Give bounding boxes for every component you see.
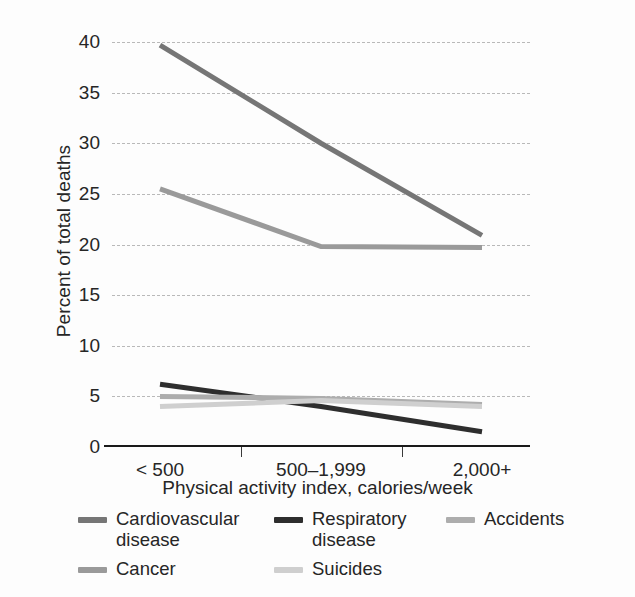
y-tick-label: 5	[44, 385, 100, 407]
legend-row: Cardiovascular diseaseRespiratory diseas…	[78, 508, 598, 550]
legend-label: Respiratory disease	[312, 508, 446, 550]
y-tick-label: 25	[44, 183, 100, 205]
legend-item[interactable]: Accidents	[446, 508, 596, 529]
y-tick-label: 30	[44, 132, 100, 154]
chart-figure: Percent of total deaths 0510152025303540…	[0, 0, 635, 597]
x-tick-mark	[241, 447, 242, 457]
series-lines-group	[112, 42, 530, 447]
legend-item[interactable]: Cardiovascular disease	[78, 508, 274, 550]
legend-label: Cardiovascular disease	[116, 508, 274, 550]
x-axis-title: Physical activity index, calories/week	[0, 477, 635, 499]
chart-legend: Cardiovascular diseaseRespiratory diseas…	[78, 508, 598, 579]
x-tick-mark	[402, 447, 403, 457]
legend-label: Cancer	[116, 558, 176, 579]
y-tick-label: 10	[44, 335, 100, 357]
legend-item[interactable]: Suicides	[274, 558, 446, 579]
series-line	[160, 384, 482, 432]
legend-item[interactable]: Cancer	[78, 558, 274, 579]
legend-swatch-icon	[274, 567, 303, 573]
y-tick-label: 40	[44, 31, 100, 53]
y-tick-label: 0	[44, 436, 100, 458]
y-tick-label: 35	[44, 82, 100, 104]
legend-swatch-icon	[78, 517, 107, 523]
legend-row: CancerSuicides	[78, 558, 598, 579]
legend-swatch-icon	[78, 567, 107, 573]
legend-item[interactable]: Respiratory disease	[274, 508, 446, 550]
legend-label: Suicides	[312, 558, 382, 579]
y-tick-label: 20	[44, 234, 100, 256]
legend-swatch-icon	[274, 517, 303, 523]
legend-swatch-icon	[446, 517, 475, 523]
legend-label: Accidents	[484, 508, 564, 529]
plot-area: 0510152025303540 < 500500–1,9992,000+	[112, 42, 530, 447]
y-tick-label: 15	[44, 284, 100, 306]
series-line	[160, 189, 482, 248]
